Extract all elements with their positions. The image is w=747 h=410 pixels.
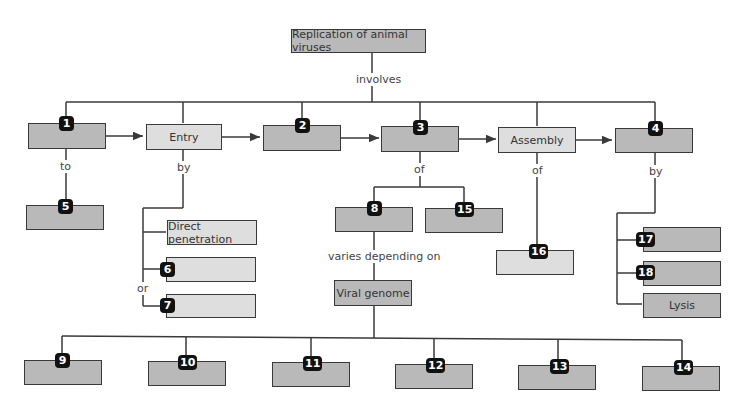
badge-11: 11: [303, 356, 322, 371]
badge-18: 18: [636, 265, 655, 280]
label-by-4: by: [647, 165, 665, 178]
badge-8: 8: [367, 201, 382, 216]
box-lysis: Lysis: [643, 293, 721, 318]
badge-5: 5: [58, 199, 73, 214]
label-of-3: of: [412, 163, 427, 176]
badge-12: 12: [426, 358, 445, 373]
label-of-assembly: of: [530, 164, 545, 177]
badge-4: 4: [648, 121, 663, 136]
box-entry: Entry: [146, 124, 222, 150]
badge-13: 13: [550, 359, 569, 374]
direct-penetration-text: Direct penetration: [168, 220, 256, 246]
label-to: to: [58, 160, 73, 173]
box-6: [166, 257, 256, 282]
label-varies: varies depending on: [326, 250, 443, 263]
label-involves: involves: [354, 73, 403, 86]
entry-text: Entry: [169, 131, 198, 144]
assembly-text: Assembly: [510, 134, 563, 147]
badge-3: 3: [413, 120, 428, 135]
label-by-entry: by: [175, 161, 193, 174]
badge-10: 10: [178, 355, 197, 370]
badge-14: 14: [674, 360, 693, 375]
badge-6: 6: [160, 262, 175, 277]
badge-2: 2: [295, 118, 310, 133]
lysis-text: Lysis: [669, 299, 695, 312]
box-viral-genome: Viral genome: [334, 280, 412, 306]
title-text: Replication of animal viruses: [292, 28, 425, 54]
badge-17: 17: [636, 232, 655, 247]
viral-genome-text: Viral genome: [336, 287, 409, 300]
title-box: Replication of animal viruses: [291, 29, 426, 53]
badge-15: 15: [455, 202, 474, 217]
badge-7: 7: [160, 298, 175, 313]
badge-9: 9: [55, 353, 70, 368]
box-7: [166, 294, 256, 318]
box-assembly: Assembly: [498, 127, 576, 153]
label-or: or: [135, 282, 150, 295]
badge-1: 1: [59, 116, 74, 131]
badge-16: 16: [529, 244, 548, 259]
box-direct-penetration: Direct penetration: [167, 220, 257, 245]
